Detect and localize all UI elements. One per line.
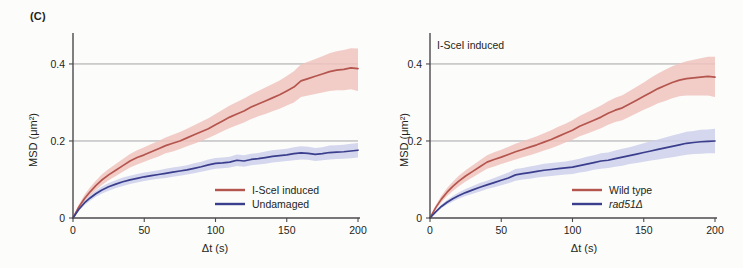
legend-label: Undamaged [252, 198, 309, 210]
x-tick-label: 0 [70, 224, 76, 236]
legend-right: Wild typerad51Δ [572, 184, 652, 210]
y-axis-title-right: MSD (μm²) [398, 113, 410, 167]
x-tick-label: 50 [495, 224, 507, 236]
figure-panel-c: (C) 05010015020000.20.4 MSD (μm²) Δt (s)… [0, 0, 743, 268]
panel-annotation-right: I-SceI induced [437, 39, 504, 51]
x-tick-label: 200 [349, 224, 367, 236]
x-tick-label: 100 [564, 224, 582, 236]
legend-label: I-SceI induced [252, 184, 319, 196]
confidence-bands-right [430, 57, 715, 218]
legend-label: Wild type [609, 184, 652, 196]
chart-right: 05010015020000.20.4 MSD (μm²) Δt (s) I-S… [372, 0, 743, 268]
chart-left-svg: 05010015020000.20.4 MSD (μm²) Δt (s) I-S… [0, 0, 372, 268]
legend-left: I-SceI inducedUndamaged [215, 184, 319, 210]
x-tick-label: 150 [635, 224, 653, 236]
x-tick-label: 150 [278, 224, 296, 236]
y-tick-label: 0.4 [407, 58, 422, 70]
y-tick-label: 0.2 [50, 135, 65, 147]
x-axis-title-left: Δt (s) [202, 242, 228, 254]
legend-label: rad51Δ [609, 198, 643, 210]
chart-left: 05010015020000.20.4 MSD (μm²) Δt (s) I-S… [0, 0, 372, 268]
y-axis-title-left: MSD (μm²) [27, 113, 39, 167]
chart-right-svg: 05010015020000.20.4 MSD (μm²) Δt (s) I-S… [372, 0, 743, 268]
x-tick-label: 100 [207, 224, 225, 236]
y-tick-label: 0 [59, 212, 65, 224]
y-tick-label: 0.4 [50, 58, 65, 70]
x-tick-label: 0 [427, 224, 433, 236]
y-tick-label: 0 [416, 212, 422, 224]
x-tick-label: 200 [706, 224, 724, 236]
x-axis-title-right: Δt (s) [571, 242, 597, 254]
x-tick-label: 50 [138, 224, 150, 236]
